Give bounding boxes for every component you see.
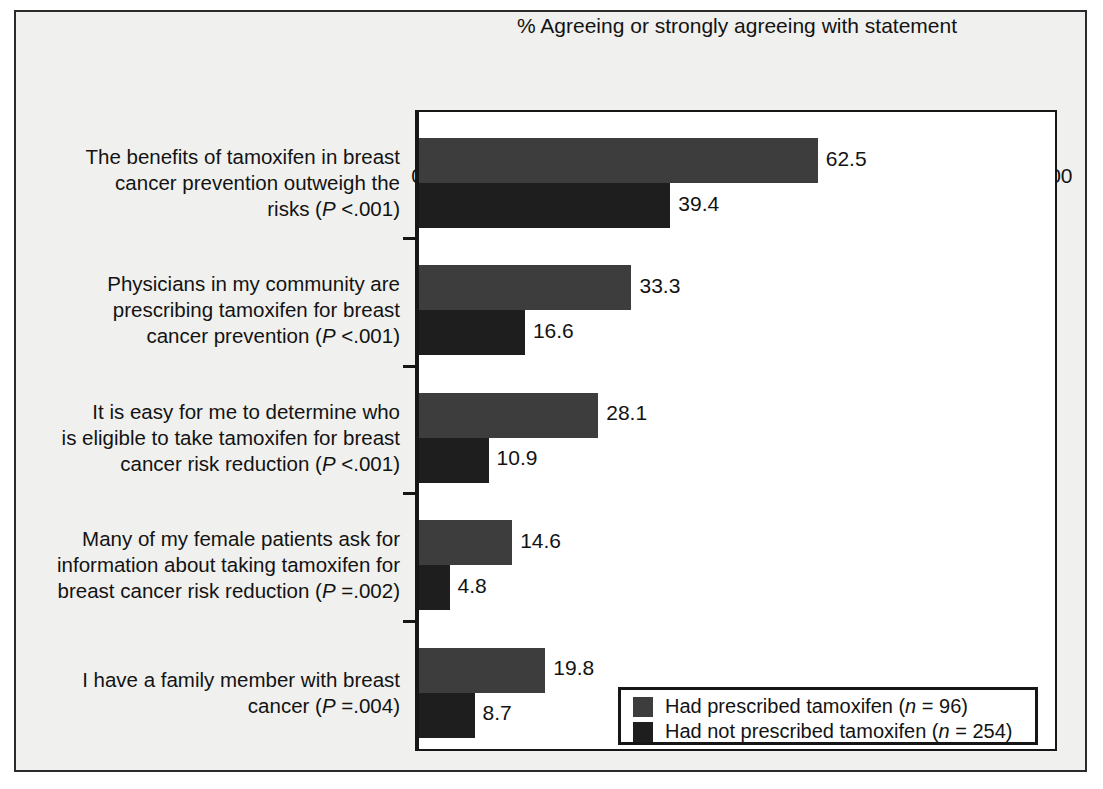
legend-item: Had prescribed tamoxifen (n = 96) [633,694,1035,719]
y-axis-separator-mark [403,620,417,623]
category-label-line: is eligible to take tamoxifen for breast [40,425,400,451]
category-label-line: risks (P <.001) [40,196,400,222]
bar-value-label: 16.6 [533,319,574,343]
category-label: I have a family member with breastcancer… [40,667,400,719]
category-label-line: prescribing tamoxifen for breast [40,297,400,323]
bar-value-label: 33.3 [639,274,680,298]
bar-value-label: 8.7 [483,701,512,725]
category-label: Physicians in my community areprescribin… [40,271,400,349]
bar-value-label: 19.8 [553,656,594,680]
legend-label: Had prescribed tamoxifen (n = 96) [665,695,968,718]
bar-value-label: 28.1 [606,401,647,425]
legend-item: Had not prescribed tamoxifen (n = 254) [633,719,1035,744]
category-label-line: cancer risk reduction (P <.001) [40,451,400,477]
category-label-line: cancer prevention outweigh the [40,170,400,196]
category-label-line: I have a family member with breast [40,667,400,693]
category-label-line: cancer (P =.004) [40,693,400,719]
category-label: The benefits of tamoxifen in breastcance… [40,144,400,222]
bar [419,520,512,565]
bar [419,565,450,610]
legend-label: Had not prescribed tamoxifen (n = 254) [665,720,1012,743]
category-label-line: breast cancer risk reduction (P =.002) [40,578,400,604]
category-label: It is easy for me to determine whois eli… [40,399,400,477]
bar [419,265,631,310]
bar [419,693,475,738]
bar [419,310,525,355]
category-label-line: cancer prevention (P <.001) [40,323,400,349]
legend: Had prescribed tamoxifen (n = 96) Had no… [618,687,1038,745]
bar [419,648,545,693]
category-label-line: Physicians in my community are [40,271,400,297]
bar-value-label: 62.5 [826,147,867,171]
y-axis-separator-mark [403,237,417,240]
category-label-line: Many of my female patients ask for [40,526,400,552]
bar [419,183,670,228]
bar-value-label: 14.6 [520,529,561,553]
category-label: Many of my female patients ask forinform… [40,526,400,604]
y-axis-separator-mark [403,492,417,495]
bar-value-label: 39.4 [678,192,719,216]
bar [419,393,598,438]
category-label-line: The benefits of tamoxifen in breast [40,144,400,170]
bar-value-label: 4.8 [458,574,487,598]
plot-area [419,112,1055,749]
bar [419,438,489,483]
bar-value-label: 10.9 [497,446,538,470]
legend-swatch-icon [633,697,653,717]
y-axis-separator-mark [403,365,417,368]
x-axis-title: % Agreeing or strongly agreeing with sta… [417,14,1057,38]
bar [419,138,818,183]
category-label-line: It is easy for me to determine who [40,399,400,425]
category-label-line: information about taking tamoxifen for [40,552,400,578]
figure-root: % Agreeing or strongly agreeing with sta… [0,0,1103,789]
legend-swatch-icon [633,722,653,742]
